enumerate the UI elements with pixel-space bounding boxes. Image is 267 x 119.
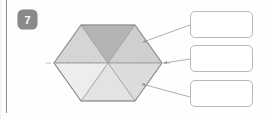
leader-line-bottom xyxy=(142,84,190,97)
answer-box-2-text xyxy=(191,46,252,52)
answer-box-2[interactable] xyxy=(190,45,253,72)
answer-box-1[interactable] xyxy=(190,11,253,38)
answer-box-1-text xyxy=(191,12,252,18)
worksheet-page: 7 xyxy=(0,0,267,119)
leader-line-middle xyxy=(164,59,190,63)
answer-box-3-text xyxy=(191,81,252,87)
leader-line-top xyxy=(143,25,190,42)
answer-box-3[interactable] xyxy=(190,80,253,107)
